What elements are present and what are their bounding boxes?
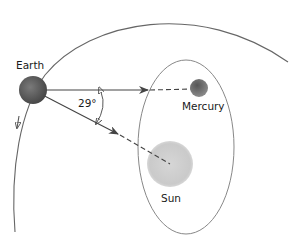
earth-orbit-arc (14, 24, 288, 232)
orbit-diagram: Earth Mercury Sun 29° (0, 0, 291, 241)
earth-sun-line (33, 90, 118, 134)
orbit-direction-arrow-icon (17, 116, 19, 128)
angle-arc (96, 92, 103, 124)
mercury (190, 79, 208, 97)
mercury-orbit (138, 60, 234, 234)
earth-mercury-dashed (150, 89, 193, 90)
mercury-label: Mercury (182, 100, 225, 112)
angle-label: 29° (78, 97, 97, 109)
sun-label: Sun (161, 192, 181, 204)
earth-label: Earth (16, 59, 44, 71)
earth (19, 76, 47, 104)
